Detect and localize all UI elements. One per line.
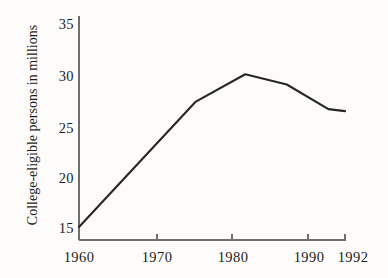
plot-area (0, 0, 388, 278)
data-line-college-eligible (79, 74, 345, 227)
chart-figure: College-eligible persons in millions 35 … (0, 0, 388, 278)
